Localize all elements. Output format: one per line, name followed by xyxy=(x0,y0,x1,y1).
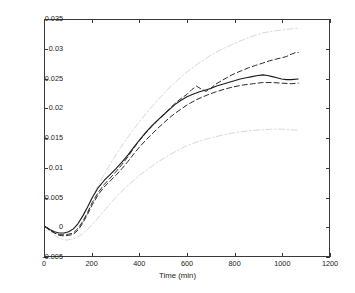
x-tick-mark xyxy=(187,19,188,23)
y-tick-label: 0.015 xyxy=(45,134,63,141)
y-tick-mark xyxy=(326,257,330,258)
x-tick-label: 400 xyxy=(133,260,145,267)
x-tick-label: 600 xyxy=(181,260,193,267)
figure-canvas: -0.00500.0050.010.0150.020.0250.030.035 … xyxy=(0,0,355,293)
x-tick-mark xyxy=(139,19,140,23)
x-axis-title: Time (min) xyxy=(0,272,355,280)
y-tick-mark xyxy=(326,198,330,199)
y-tick-mark xyxy=(44,49,48,50)
y-tick-mark xyxy=(44,168,48,169)
y-tick-label: 0.02 xyxy=(49,104,63,111)
x-tick-label: 1200 xyxy=(322,260,338,267)
x-tick-mark xyxy=(330,19,331,23)
series-line-outer-lower-band xyxy=(45,129,298,240)
series-line-lower-dashed xyxy=(45,83,298,236)
x-tick-mark xyxy=(282,19,283,23)
x-tick-mark xyxy=(92,253,93,257)
plot-svg xyxy=(45,20,329,256)
x-tick-label: 200 xyxy=(86,260,98,267)
x-tick-label: 800 xyxy=(229,260,241,267)
y-tick-mark xyxy=(326,138,330,139)
x-tick-mark xyxy=(330,253,331,257)
series-line-outer-upper-band xyxy=(45,28,298,234)
plot-area xyxy=(44,19,330,257)
x-tick-label: 1000 xyxy=(274,260,290,267)
y-tick-label: 0.005 xyxy=(45,194,63,201)
x-tick-mark xyxy=(92,19,93,23)
y-tick-mark xyxy=(326,108,330,109)
y-tick-mark xyxy=(326,227,330,228)
y-tick-mark xyxy=(44,227,48,228)
y-tick-label: 0 xyxy=(59,223,63,230)
y-tick-label: 0.01 xyxy=(49,164,63,171)
x-tick-mark xyxy=(139,253,140,257)
y-tick-mark xyxy=(326,79,330,80)
y-tick-label: 0.025 xyxy=(45,75,63,82)
y-tick-mark xyxy=(44,108,48,109)
y-tick-mark xyxy=(326,49,330,50)
y-tick-mark xyxy=(326,168,330,169)
y-tick-label: 0.035 xyxy=(45,15,63,22)
x-tick-mark xyxy=(235,253,236,257)
x-tick-mark xyxy=(235,19,236,23)
x-tick-label: 0 xyxy=(42,260,46,267)
y-tick-label: 0.03 xyxy=(49,45,63,52)
x-tick-mark xyxy=(187,253,188,257)
series-line-upper-dashed xyxy=(45,52,298,234)
x-tick-mark xyxy=(282,253,283,257)
